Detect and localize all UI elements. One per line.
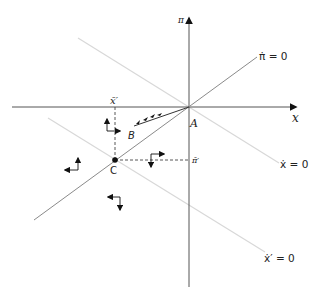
direction-arrow-far-left [65, 158, 78, 170]
pi-dot-zero-line [34, 57, 257, 220]
direction-arrow-below-c [108, 197, 120, 210]
pi-axis-label: π [177, 15, 185, 25]
phase-diagram: π x A B C x̄′ π̄′ π̇ = 0 ẋ = 0 ẋ′ = 0 [0, 0, 319, 303]
x-dot-zero-line [78, 38, 279, 163]
point-b-label: B [128, 130, 135, 141]
pi-bar-prime-label: π̄′ [191, 156, 199, 165]
point-c-label: C [110, 165, 117, 176]
direction-arrow-upper-left [107, 119, 120, 131]
path-b-to-a [134, 107, 189, 126]
x-dot-zero-label: ẋ = 0 [280, 158, 308, 170]
point-c [112, 157, 118, 163]
direction-arrow-right-of-c [151, 154, 164, 167]
x-bar-prime-label: x̄′ [110, 95, 119, 106]
x-prime-dot-zero-label: ẋ′ = 0 [264, 252, 295, 264]
x-prime-dot-zero-line [48, 118, 265, 252]
point-a-label: A [189, 117, 198, 130]
x-axis-label: x [292, 111, 299, 125]
pi-dot-zero-label: π̇ = 0 [259, 50, 287, 62]
